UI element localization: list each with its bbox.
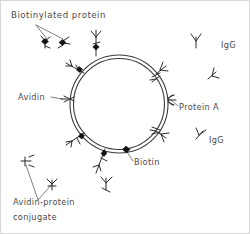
free-avidin-marker [101,177,112,192]
leader-biotin [127,152,133,161]
membrane-inner-ring [74,59,165,150]
biotinylated-protein-1 [41,36,50,48]
label-igg-upper: IgG [221,40,236,50]
cell-membrane [70,55,168,153]
bound-avidin-left [61,96,74,102]
igg-upper-antibody [208,68,219,79]
black-diamond-icon [59,40,66,46]
black-diamond-icon [93,44,99,50]
free-igg-upper [191,34,201,48]
label-conjugate-line2: conjugate [13,212,57,222]
leader-conjugate-left [26,165,38,200]
igg-lower-antibody [196,128,206,139]
bound-complex-upper-right [150,62,168,82]
label-protein-a: Protein A [179,102,219,112]
label-avidin: Avidin [18,92,45,102]
bound-complex-upper-left [66,60,84,73]
leader-avidin [51,97,62,99]
label-igg-lower: IgG [209,135,224,145]
bound-complex-top [91,30,101,56]
schematic-svg: Biotinylated protein Avidin Protein A Bi… [0,0,250,234]
figure-canvas: Biotinylated protein Avidin Protein A Bi… [0,0,250,234]
membrane-outer-ring [70,55,168,153]
bound-complex-lower-left [66,133,85,147]
biotinylated-protein-2 [58,37,70,48]
label-conjugate-line1: Avidin-protein [13,197,75,207]
bound-complex-bottom-left [93,149,107,173]
avidin-protein-conjugate-1 [21,155,34,167]
label-biotinylated-protein: Biotinylated protein [11,10,106,20]
label-biotin: Biotin [134,157,160,167]
